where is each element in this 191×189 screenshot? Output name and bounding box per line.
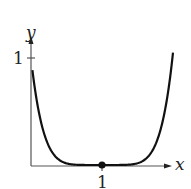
x-axis-label: x (175, 154, 185, 174)
y-tick-label: 1 (13, 48, 24, 68)
curve-line (32, 53, 173, 165)
x-axis-arrow-icon (164, 164, 172, 169)
x-tick-label: 1 (97, 172, 108, 189)
chart: y 1 x 1 (0, 0, 191, 189)
y-axis-label: y (26, 22, 36, 42)
min-point (98, 161, 105, 168)
